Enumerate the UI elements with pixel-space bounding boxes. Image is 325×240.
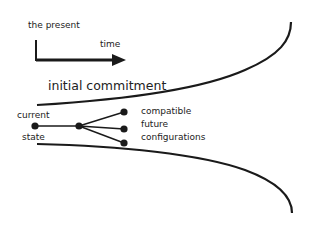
- future-label: future: [141, 120, 168, 129]
- time-arrow-head: [112, 54, 126, 66]
- current-state-node: [31, 122, 38, 129]
- time-label: time: [100, 40, 120, 49]
- present-label: the present: [28, 21, 80, 30]
- lower-boundary-curve: [37, 144, 292, 213]
- future-node-3: [120, 139, 127, 146]
- future-node-2: [120, 125, 127, 132]
- initial-commitment-label: initial commitment: [48, 80, 166, 93]
- branch-line-top: [79, 112, 124, 126]
- compatible-label: compatible: [141, 107, 191, 116]
- current-label: current: [17, 111, 49, 120]
- configurations-label: configurations: [141, 133, 205, 142]
- future-node-1: [120, 108, 127, 115]
- state-label: state: [22, 133, 45, 142]
- branch-node: [75, 122, 82, 129]
